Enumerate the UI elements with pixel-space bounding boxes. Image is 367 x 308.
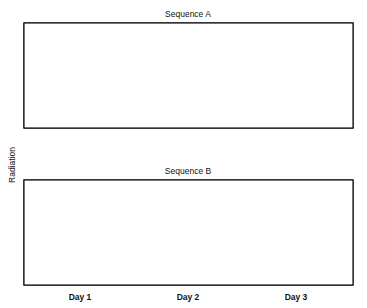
panel-sequence-a: Sequence A xyxy=(24,9,353,128)
panel-a-title: Sequence A xyxy=(165,9,211,19)
x-tick-label-day-3: Day 3 xyxy=(285,292,308,302)
y-axis-label: Radiation xyxy=(7,147,17,183)
panel-sequence-b: Sequence B xyxy=(24,166,353,285)
y-axis-label-text: Radiation xyxy=(7,147,17,183)
radiation-sequence-figure: Radiation Sequence A xyxy=(0,0,367,308)
panel-b-title: Sequence B xyxy=(165,166,212,176)
x-tick-label-day-1: Day 1 xyxy=(69,292,92,302)
x-axis-tick-labels: Day 1 Day 2 Day 3 xyxy=(69,292,308,302)
panel-a-frame-overlay xyxy=(24,23,353,128)
x-tick-label-day-2: Day 2 xyxy=(177,292,200,302)
panel-b-frame-overlay xyxy=(24,180,353,285)
